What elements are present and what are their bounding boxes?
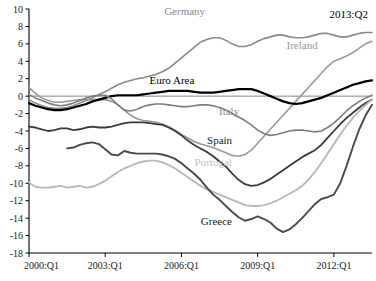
y-axis-tick-label: -14 <box>10 213 23 224</box>
series-label-germany: Germany <box>164 5 205 17</box>
x-axis-tick-label: 2012:Q1 <box>316 260 351 271</box>
series-label-spain: Spain <box>207 134 233 146</box>
y-axis-tick-label: 8 <box>18 21 23 32</box>
series-label-ireland: Ireland <box>287 39 319 51</box>
y-axis-tick-label: -8 <box>15 160 23 171</box>
corner-annotation-group: 2013:Q2 <box>330 8 369 20</box>
y-axis-tick-label: -12 <box>10 195 23 206</box>
y-axis-tick-label: -18 <box>10 248 23 259</box>
x-axis-tick-label: 2000:Q1 <box>24 260 59 271</box>
y-axis-tick-label: -10 <box>10 178 23 189</box>
y-axis-tick-label: -4 <box>15 126 23 137</box>
chart-canvas: 1086420-2-4-6-8-10-12-14-16-18 2000:Q120… <box>0 0 376 281</box>
y-axis-tick-label: -2 <box>15 108 23 119</box>
series-label-euro-area: Euro Area <box>149 74 194 86</box>
x-axis-tick-label: 2009:Q1 <box>240 260 275 271</box>
corner-annotation: 2013:Q2 <box>330 8 369 20</box>
y-axis-tick-label: 10 <box>13 4 23 15</box>
line-chart: 1086420-2-4-6-8-10-12-14-16-18 2000:Q120… <box>0 0 376 281</box>
x-axis-tick-label: 2003:Q1 <box>88 260 123 271</box>
y-axis-tick-label: 4 <box>18 56 23 67</box>
series-label-italy: Italy <box>219 105 240 117</box>
y-axis-tick-label: 6 <box>18 38 23 49</box>
y-axis-tick-label: 0 <box>18 91 23 102</box>
y-axis-tick-label: -16 <box>10 230 23 241</box>
y-axis-tick-label: 2 <box>18 73 23 84</box>
series-label-greece: Greece <box>201 215 232 227</box>
y-axis-tick-label: -6 <box>15 143 23 154</box>
x-axis-tick-label: 2006:Q1 <box>164 260 199 271</box>
series-label-portugal: Portugal <box>195 156 232 168</box>
